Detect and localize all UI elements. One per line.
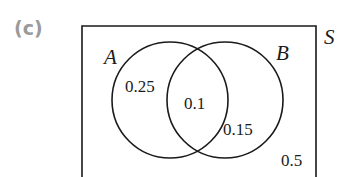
set-a-circle xyxy=(112,42,228,158)
set-b-label: B xyxy=(276,41,289,65)
a-only-value: 0.25 xyxy=(125,77,155,96)
set-a-label: A xyxy=(102,45,117,69)
b-only-value: 0.15 xyxy=(223,120,253,139)
outside-value: 0.5 xyxy=(281,151,302,170)
venn-diagram: S A B 0.25 0.1 0.15 0.5 xyxy=(0,0,340,177)
universe-label: S xyxy=(324,25,335,49)
intersection-value: 0.1 xyxy=(184,94,205,113)
